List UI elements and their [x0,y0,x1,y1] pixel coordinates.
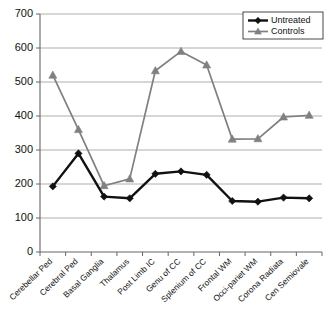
y-tick-label: 200 [15,177,33,189]
y-tick-label: 400 [15,109,33,121]
y-tick-label: 500 [15,75,33,87]
line-chart: 0100200300400500600700 Cerebellar PedCer… [0,0,333,314]
legend-label: Controls [271,26,305,36]
y-tick-label: 0 [27,245,33,257]
y-tick-label: 700 [15,7,33,19]
x-axis-tick-labels: Cerebellar PedCerebral PedBasal GangliaT… [7,256,311,304]
legend-label: Untreated [271,15,311,25]
x-tick-label: Cerebellar Ped [7,256,54,302]
y-tick-label: 300 [15,143,33,155]
x-axis-tick-marks [40,252,322,256]
chart-container: 0100200300400500600700 Cerebellar PedCer… [0,0,333,314]
y-tick-label: 100 [15,211,33,223]
y-tick-label: 600 [15,41,33,53]
y-axis-tick-marks [36,14,40,252]
chart-legend: UntreatedControls [243,12,323,39]
y-axis-tick-labels: 0100200300400500600700 [15,7,33,257]
